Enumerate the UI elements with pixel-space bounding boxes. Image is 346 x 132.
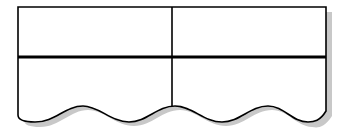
cell-r2-c1 [18,57,172,107]
cell-r1-c2 [172,7,326,57]
cell-r1-c1 [18,7,172,57]
cell-r2-c2 [172,57,326,107]
table-cells [18,7,326,107]
